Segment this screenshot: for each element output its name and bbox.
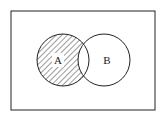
set-a-label: A (54, 54, 62, 66)
set-b-label: B (103, 54, 110, 66)
venn-diagram: A B (0, 0, 166, 116)
